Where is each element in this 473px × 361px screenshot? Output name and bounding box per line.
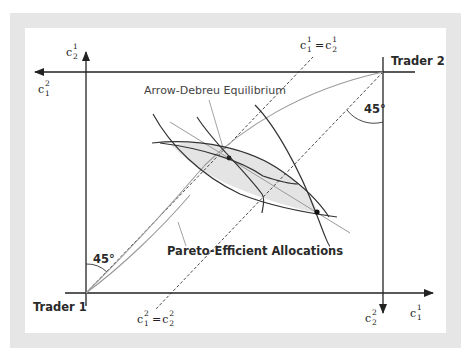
equilibrium-pointer xyxy=(209,100,224,151)
angle-label-bottom-left: 45° xyxy=(93,254,115,266)
angle-label-top-right: 45° xyxy=(364,104,386,116)
trader1-x-axis-label: c11 xyxy=(410,308,424,319)
pareto-label: Pareto-Efficient Allocations xyxy=(167,246,343,258)
equilibrium-label: Arrow-Debreu Equilibrium xyxy=(144,85,286,96)
equilibrium-point xyxy=(227,156,232,161)
endowment-point xyxy=(314,209,319,214)
trader2-certainty-label: c21=c22 xyxy=(137,314,176,325)
trader2-y-axis-label: c22 xyxy=(365,313,379,324)
trader1-certainty-label: c11=c12 xyxy=(300,40,339,51)
trader2-label: Trader 2 xyxy=(391,56,445,68)
trader2-x-axis-label: c21 xyxy=(38,84,52,95)
pareto-pointer xyxy=(178,222,186,246)
lens-region xyxy=(171,143,318,213)
trader1-label: Trader 1 xyxy=(33,302,87,314)
trader1-y-axis-label: c12 xyxy=(66,47,80,58)
